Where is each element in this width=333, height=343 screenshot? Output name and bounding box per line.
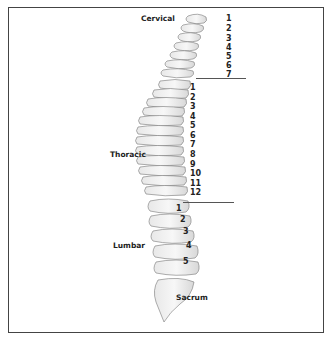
lumbar-number: 2: [180, 216, 186, 224]
thoracic-number: 10: [190, 170, 201, 178]
cervical-number: 5: [226, 53, 232, 61]
thoracic-number: 9: [190, 161, 196, 169]
thoracic-number: 5: [190, 122, 196, 130]
thoracic-number: 12: [190, 189, 201, 197]
cervical-number: 1: [226, 15, 232, 23]
thoracic-number: 4: [190, 113, 196, 121]
lumbar-number: 5: [183, 258, 189, 266]
cervical-number: 2: [226, 25, 232, 33]
thoracic-number: 7: [190, 141, 196, 149]
thoracic-lumbar-divider: [183, 202, 234, 203]
lumbar-number: 1: [176, 205, 182, 213]
thoracic-number: 3: [190, 103, 196, 111]
label-thoracic: Thoracic: [110, 150, 146, 159]
thoracic-number: 8: [190, 151, 196, 159]
lumbar-number: 4: [186, 242, 192, 250]
cervical-number: 4: [226, 44, 232, 52]
lumbar-number: 3: [183, 228, 189, 236]
cervical-number: 3: [226, 35, 232, 43]
thoracic-number: 2: [190, 94, 196, 102]
spine-illustration: [0, 0, 333, 343]
thoracic-number: 1: [190, 84, 196, 92]
label-cervical: Cervical: [141, 14, 175, 23]
cervical-thoracic-divider: [196, 78, 246, 79]
label-sacrum: Sacrum: [176, 293, 208, 302]
thoracic-number: 6: [190, 132, 196, 140]
label-lumbar: Lumbar: [113, 241, 145, 250]
cervical-number: 6: [226, 62, 232, 70]
thoracic-number: 11: [190, 180, 201, 188]
